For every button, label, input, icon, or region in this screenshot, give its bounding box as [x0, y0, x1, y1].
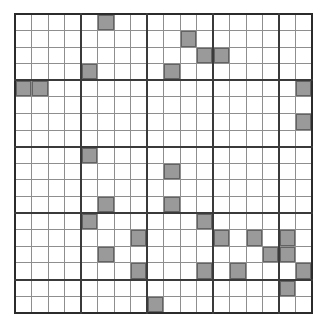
grid-cell-filled[interactable] [296, 80, 313, 97]
grid-cell-empty[interactable] [213, 31, 230, 48]
grid-cell-empty[interactable] [147, 97, 164, 114]
grid-cell-empty[interactable] [98, 280, 115, 297]
grid-cell-empty[interactable] [114, 180, 131, 197]
grid-cell-empty[interactable] [15, 197, 32, 214]
grid-cell-empty[interactable] [98, 263, 115, 280]
grid-cell-empty[interactable] [32, 114, 49, 131]
grid-cell-empty[interactable] [114, 246, 131, 263]
grid-cell-empty[interactable] [98, 130, 115, 147]
grid-cell-empty[interactable] [65, 130, 82, 147]
grid-cell-empty[interactable] [32, 296, 49, 313]
grid-cell-filled[interactable] [279, 246, 296, 263]
grid-cell-empty[interactable] [230, 80, 247, 97]
grid-cell-empty[interactable] [65, 147, 82, 164]
grid-cell-empty[interactable] [131, 280, 148, 297]
grid-cell-empty[interactable] [279, 213, 296, 230]
grid-cell-empty[interactable] [81, 280, 98, 297]
grid-cell-empty[interactable] [180, 64, 197, 81]
grid-cell-empty[interactable] [246, 31, 263, 48]
grid-cell-empty[interactable] [279, 47, 296, 64]
grid-cell-empty[interactable] [213, 263, 230, 280]
grid-cell-empty[interactable] [197, 180, 214, 197]
grid-cell-empty[interactable] [147, 213, 164, 230]
grid-cell-empty[interactable] [114, 263, 131, 280]
grid-cell-empty[interactable] [81, 80, 98, 97]
grid-cell-empty[interactable] [48, 114, 65, 131]
grid-cell-empty[interactable] [164, 230, 181, 247]
grid-cell-empty[interactable] [213, 14, 230, 31]
grid-cell-empty[interactable] [197, 197, 214, 214]
grid-cell-filled[interactable] [180, 31, 197, 48]
grid-cell-empty[interactable] [65, 280, 82, 297]
grid-cell-empty[interactable] [230, 246, 247, 263]
grid-cell-empty[interactable] [213, 280, 230, 297]
grid-cell-empty[interactable] [279, 97, 296, 114]
grid-cell-empty[interactable] [263, 213, 280, 230]
grid-cell-empty[interactable] [263, 47, 280, 64]
grid-cell-empty[interactable] [114, 147, 131, 164]
grid-cell-empty[interactable] [246, 114, 263, 131]
grid-cell-empty[interactable] [180, 230, 197, 247]
grid-cell-empty[interactable] [131, 47, 148, 64]
grid-cell-empty[interactable] [180, 114, 197, 131]
grid-cell-empty[interactable] [213, 213, 230, 230]
grid-cell-empty[interactable] [263, 64, 280, 81]
grid-cell-empty[interactable] [296, 14, 313, 31]
grid-cell-empty[interactable] [263, 147, 280, 164]
grid-cell-empty[interactable] [197, 296, 214, 313]
grid-cell-empty[interactable] [147, 31, 164, 48]
grid-cell-empty[interactable] [230, 147, 247, 164]
grid-cell-empty[interactable] [164, 296, 181, 313]
grid-cell-empty[interactable] [296, 230, 313, 247]
grid-cell-empty[interactable] [180, 130, 197, 147]
grid-cell-empty[interactable] [213, 147, 230, 164]
grid-cell-empty[interactable] [98, 64, 115, 81]
grid-cell-empty[interactable] [114, 280, 131, 297]
grid-cell-empty[interactable] [114, 213, 131, 230]
grid-cell-empty[interactable] [15, 180, 32, 197]
grid-cell-empty[interactable] [197, 80, 214, 97]
grid-cell-empty[interactable] [81, 180, 98, 197]
grid-cell-empty[interactable] [48, 31, 65, 48]
grid-cell-empty[interactable] [15, 14, 32, 31]
grid-cell-empty[interactable] [147, 263, 164, 280]
grid-cell-empty[interactable] [65, 163, 82, 180]
grid-cell-empty[interactable] [48, 14, 65, 31]
grid-cell-empty[interactable] [197, 31, 214, 48]
grid-cell-empty[interactable] [48, 197, 65, 214]
grid-cell-empty[interactable] [180, 246, 197, 263]
grid-cell-empty[interactable] [246, 246, 263, 263]
grid-cell-empty[interactable] [15, 31, 32, 48]
grid-cell-empty[interactable] [32, 31, 49, 48]
grid-cell-empty[interactable] [263, 280, 280, 297]
grid-cell-empty[interactable] [263, 230, 280, 247]
grid-cell-empty[interactable] [164, 263, 181, 280]
grid-cell-empty[interactable] [32, 280, 49, 297]
grid-cell-empty[interactable] [131, 213, 148, 230]
grid-cell-empty[interactable] [279, 147, 296, 164]
grid-cell-empty[interactable] [213, 197, 230, 214]
grid-cell-empty[interactable] [15, 263, 32, 280]
grid-cell-filled[interactable] [131, 263, 148, 280]
grid-cell-filled[interactable] [213, 47, 230, 64]
grid-cell-empty[interactable] [81, 31, 98, 48]
grid-cell-empty[interactable] [32, 263, 49, 280]
grid-cell-empty[interactable] [98, 213, 115, 230]
grid-cell-empty[interactable] [263, 197, 280, 214]
grid-cell-empty[interactable] [131, 296, 148, 313]
grid-cell-empty[interactable] [164, 213, 181, 230]
grid-cell-filled[interactable] [230, 263, 247, 280]
grid-cell-empty[interactable] [98, 180, 115, 197]
grid-cell-empty[interactable] [279, 263, 296, 280]
grid-cell-empty[interactable] [296, 64, 313, 81]
grid-cell-empty[interactable] [246, 197, 263, 214]
grid-cell-empty[interactable] [296, 296, 313, 313]
grid-cell-empty[interactable] [296, 280, 313, 297]
grid-cell-empty[interactable] [65, 31, 82, 48]
grid-cell-empty[interactable] [98, 31, 115, 48]
grid-cell-filled[interactable] [164, 163, 181, 180]
grid-cell-empty[interactable] [164, 280, 181, 297]
grid-cell-empty[interactable] [230, 296, 247, 313]
grid-cell-filled[interactable] [98, 197, 115, 214]
grid-cell-empty[interactable] [65, 64, 82, 81]
